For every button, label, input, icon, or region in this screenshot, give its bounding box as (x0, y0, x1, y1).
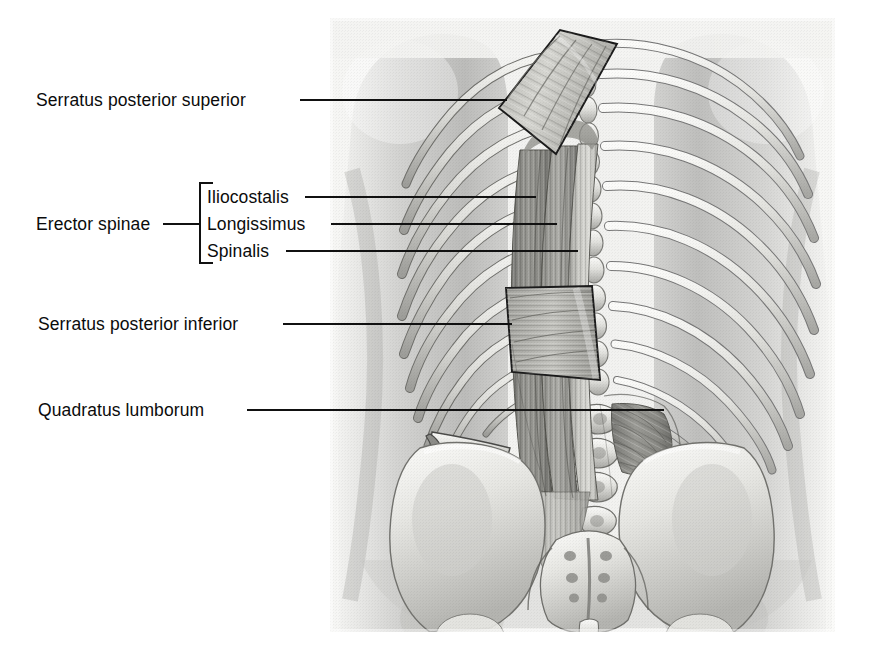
label-spinalis: Spinalis (207, 243, 269, 261)
label-longissimus: Longissimus (207, 216, 305, 234)
leader-line-spinalis (286, 250, 578, 252)
leader-line-serratus-posterior-superior (300, 99, 507, 101)
anatomy-figure: Serratus posterior superior Erector spin… (0, 0, 890, 657)
leader-line-serratus-posterior-inferior (283, 323, 512, 325)
label-quadratus-lumborum: Quadratus lumborum (38, 402, 204, 420)
erector-spinae-bracket (199, 182, 201, 264)
label-erector-spinae: Erector spinae (36, 216, 150, 234)
label-serratus-posterior-superior: Serratus posterior superior (36, 92, 246, 110)
erector-spinae-bracket-top-tick (199, 182, 213, 184)
leader-line-longissimus (331, 223, 557, 225)
leader-line-quadratus-lumborum (247, 409, 664, 411)
erector-spinae-bracket-bottom-tick (199, 262, 213, 264)
leader-line-erector-spinae (163, 223, 201, 225)
leader-line-iliocostalis (305, 196, 536, 198)
illustration-panel (330, 18, 835, 657)
label-serratus-posterior-inferior: Serratus posterior inferior (38, 316, 238, 334)
label-iliocostalis: Iliocostalis (207, 189, 289, 207)
